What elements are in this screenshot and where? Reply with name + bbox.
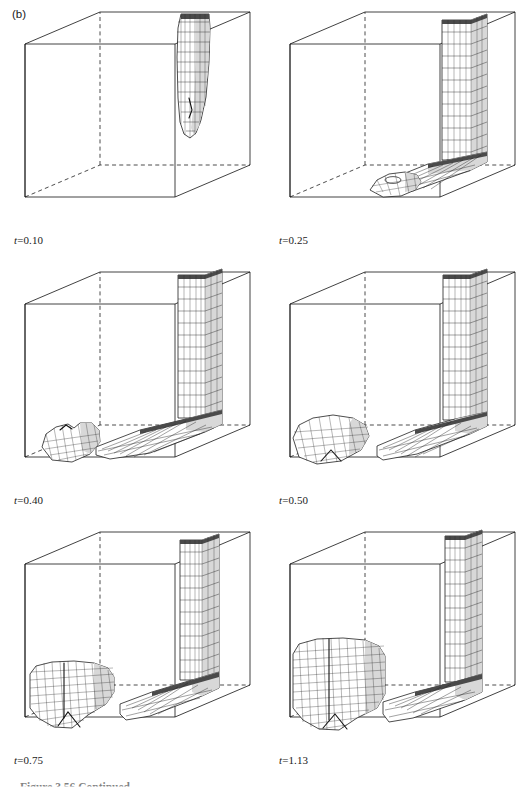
fluid-column: [178, 269, 222, 418]
panel-label-t075: t=0.75: [14, 754, 43, 766]
panel-t050: t=0.50: [265, 262, 530, 522]
panel-label-t010: t=0.10: [14, 234, 43, 246]
fluid-column: [445, 530, 482, 682]
panel-t025: t=0.25: [265, 2, 530, 262]
panel-label-t113: t=1.13: [279, 754, 308, 766]
panel-t040: t=0.40: [0, 262, 265, 522]
fluid-column: [443, 269, 487, 420]
fluid-left-block: [30, 661, 114, 728]
panel-label-t050: t=0.50: [279, 494, 308, 506]
time-value: 1.13: [288, 754, 308, 766]
time-value: 0.50: [288, 494, 308, 506]
panel-label-t025: t=0.25: [279, 234, 308, 246]
time-value: 0.10: [23, 234, 43, 246]
panel-t113: t=1.13: [265, 522, 530, 782]
figure-caption: Figure 3.56 Continued: [20, 781, 130, 793]
panel-t075: t=0.75: [0, 522, 265, 782]
fluid-jet: [177, 14, 210, 138]
time-value: 0.25: [288, 234, 308, 246]
fluid-column: [442, 14, 487, 160]
time-value: 0.40: [23, 494, 43, 506]
panel-label-t040: t=0.40: [14, 494, 43, 506]
figure-root: (b): [0, 0, 530, 793]
domain-box: [25, 12, 250, 197]
fluid-column: [180, 534, 219, 680]
time-value: 0.75: [23, 754, 43, 766]
panel-t010: t=0.10: [0, 2, 265, 262]
